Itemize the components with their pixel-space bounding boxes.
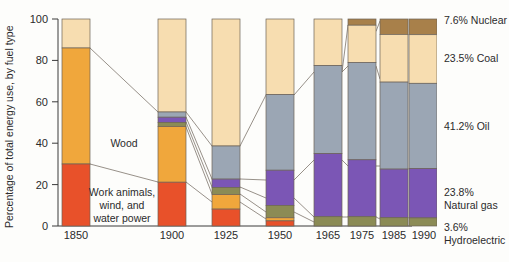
segment-coal-1925	[212, 19, 240, 146]
segment-coal-1850	[62, 19, 90, 48]
y-tick-60: 60	[36, 96, 48, 108]
segment-wood-1950	[266, 218, 294, 221]
segment-wood-1850	[62, 48, 90, 164]
segment-coal-1975	[348, 25, 376, 62]
segment-oil-1990	[409, 83, 437, 168]
segment-oil-1965	[314, 66, 342, 154]
y-tick-100: 100	[30, 13, 48, 25]
annotation-work-animals-l3: water power	[92, 212, 151, 224]
bar-1925	[212, 19, 240, 226]
label-oil: 41.2% Oil	[444, 120, 490, 132]
segment-hydroelectric-1900	[158, 122, 186, 126]
bar-1990	[409, 19, 437, 226]
x-tick-1985: 1985	[382, 229, 406, 241]
x-tick-1950: 1950	[268, 229, 292, 241]
bar-1950	[266, 19, 294, 226]
segment-wood-1925	[212, 195, 240, 210]
x-tick-1965: 1965	[316, 229, 340, 241]
label-coal: 23.5% Coal	[444, 52, 498, 64]
label-hydroelectric: Hydroelectric	[444, 234, 505, 246]
segment-work-animals-1925	[212, 209, 240, 226]
segment-nuclear-1990	[409, 19, 437, 35]
bar-1975	[348, 19, 376, 226]
segment-natural-gas-1900	[158, 117, 186, 122]
segment-coal-1900	[158, 19, 186, 112]
segment-coal-1985	[380, 35, 408, 83]
segment-hydroelectric-1925	[212, 187, 240, 194]
x-tick-1900: 1900	[160, 229, 184, 241]
label-nuclear: 7.6% Nuclear	[444, 14, 508, 26]
y-axis-title: Percentage of total energy use, by fuel …	[3, 25, 15, 228]
annotation-work-animals-l2: wind, and	[99, 199, 145, 211]
segment-work-animals-1900	[158, 182, 186, 226]
bar-1965	[314, 19, 342, 226]
y-tick-0: 0	[42, 220, 48, 232]
label-natural-gas-pct: 23.8%	[444, 186, 474, 198]
segment-natural-gas-1950	[266, 170, 294, 205]
label-natural-gas: Natural gas	[444, 199, 498, 211]
segment-natural-gas-1985	[380, 169, 408, 218]
segment-oil-1900	[158, 112, 186, 117]
y-tick-20: 20	[36, 179, 48, 191]
annotation-wood: Wood	[110, 137, 137, 149]
segment-hydroelectric-1950	[266, 205, 294, 217]
segment-wood-1900	[158, 127, 186, 183]
x-tick-1850: 1850	[64, 229, 88, 241]
segment-coal-1965	[314, 19, 342, 66]
segment-natural-gas-1925	[212, 179, 240, 187]
segment-work-animals-1950	[266, 221, 294, 226]
segment-work-animals-1850	[62, 164, 90, 226]
bar-1850	[62, 19, 90, 226]
segment-oil-1975	[348, 63, 376, 160]
segment-hydroelectric-1975	[348, 217, 376, 226]
x-tick-1925: 1925	[214, 229, 238, 241]
segment-oil-1985	[380, 82, 408, 169]
segment-natural-gas-1975	[348, 160, 376, 217]
spacer	[437, 0, 442, 262]
bar-1985	[380, 19, 408, 226]
label-hydro-pct: 3.6%	[444, 221, 468, 233]
annotation-work-animals-l1: Work animals,	[89, 186, 155, 198]
bar-1900	[158, 19, 186, 226]
segment-coal-1950	[266, 19, 294, 95]
energy-mix-stacked-bar-chart: Percentage of total energy use, by fuel …	[0, 0, 509, 262]
y-tick-80: 80	[36, 54, 48, 66]
x-tick-1975: 1975	[350, 229, 374, 241]
segment-natural-gas-1965	[314, 154, 342, 217]
segment-nuclear-1975	[348, 19, 376, 25]
segment-oil-1925	[212, 146, 240, 179]
segment-hydroelectric-1990	[409, 218, 437, 226]
segment-hydroelectric-1965	[314, 217, 342, 226]
segment-nuclear-1985	[380, 19, 408, 35]
segment-oil-1950	[266, 95, 294, 171]
segment-hydroelectric-1985	[380, 218, 408, 226]
segment-coal-1990	[409, 35, 437, 84]
x-tick-1990: 1990	[412, 229, 436, 241]
segment-natural-gas-1990	[409, 169, 437, 218]
y-tick-40: 40	[36, 137, 48, 149]
